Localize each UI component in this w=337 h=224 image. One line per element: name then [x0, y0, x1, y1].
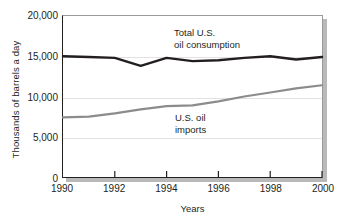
series-label-total-consumption-line1: Total U.S. — [174, 27, 240, 39]
x-tick-label-1998: 1998 — [260, 183, 282, 194]
x-tick-label-2000: 2000 — [312, 183, 334, 194]
y-tick-label-10000: 10,000 — [0, 91, 58, 102]
x-tick-label-1990: 1990 — [51, 183, 73, 194]
plot-area: Total U.S. oil consumption U.S. oil impo… — [62, 15, 323, 178]
oil-line-chart: Thousands of barrels a day 05,00010,0001… — [0, 0, 337, 224]
x-axis-tick-labels: 199019921994199619982000 — [62, 183, 323, 199]
x-tick-label-1996: 1996 — [207, 183, 229, 194]
series-line-total-consumption — [63, 56, 322, 66]
x-tick-label-1994: 1994 — [155, 183, 177, 194]
x-axis-title: Years — [62, 203, 323, 214]
y-tick-label-0: 0 — [0, 173, 58, 184]
series-label-oil-imports-line1: U.S. oil — [175, 112, 206, 124]
y-tick-label-20000: 20,000 — [0, 10, 58, 21]
x-tick-label-1992: 1992 — [103, 183, 125, 194]
y-tick-label-5000: 5,000 — [0, 132, 58, 143]
series-label-total-consumption-line2: oil consumption — [174, 39, 240, 51]
series-label-oil-imports-line2: imports — [175, 124, 206, 136]
series-label-total-consumption: Total U.S. oil consumption — [174, 27, 240, 50]
y-axis-tick-labels: 05,00010,00015,00020,000 — [0, 0, 58, 224]
y-tick-label-15000: 15,000 — [0, 50, 58, 61]
series-label-oil-imports: U.S. oil imports — [175, 112, 206, 135]
